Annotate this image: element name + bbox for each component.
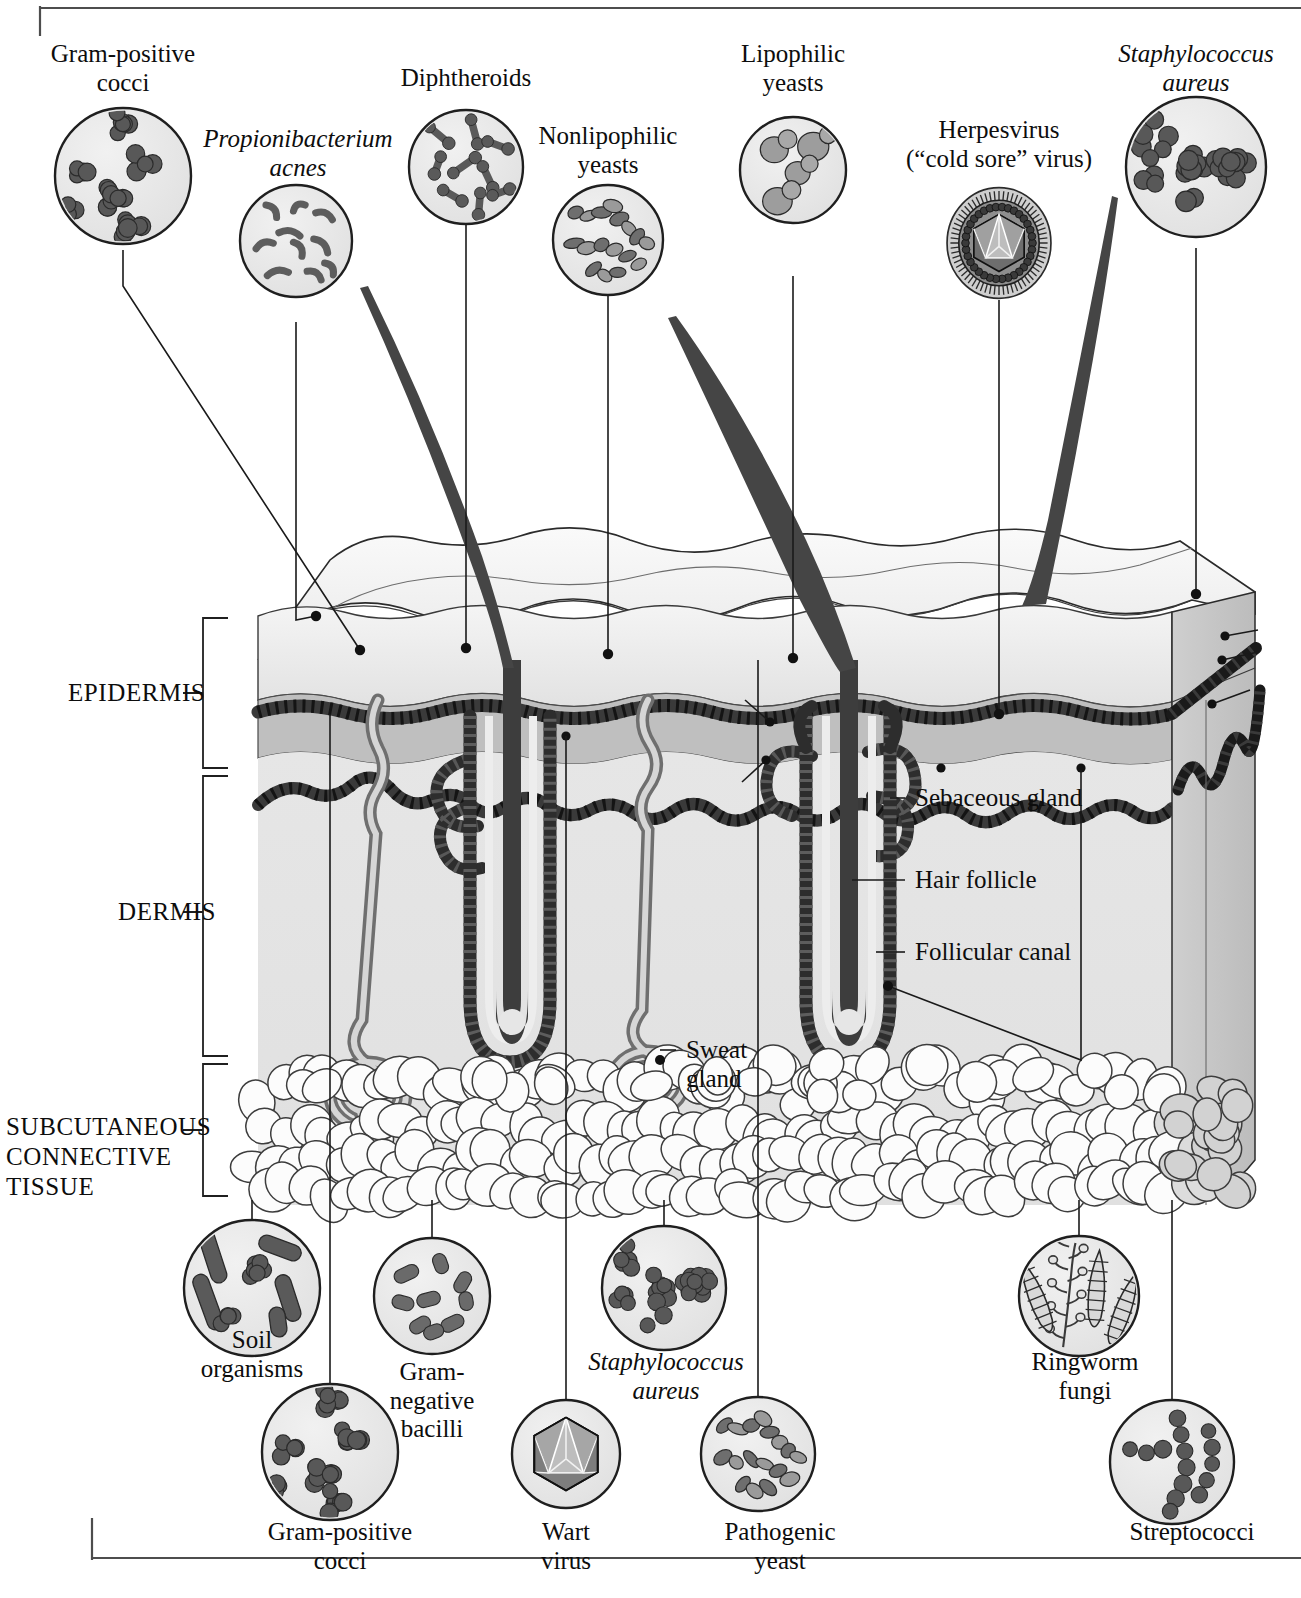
organism-inset-ringworm-fungi bbox=[1012, 1233, 1146, 1356]
figure-canvas: EPIDERMIS DERMIS SUBCUTANEOUS CONNECTIVE… bbox=[0, 0, 1301, 1598]
organism-label-lipophilic-yeasts: Lipophilic yeasts bbox=[698, 40, 888, 97]
organism-inset-wart-virus bbox=[512, 1400, 620, 1508]
organism-label-wart-virus: Wart virus bbox=[487, 1518, 645, 1575]
organism-label-soil-organisms: Soil organisms bbox=[162, 1326, 342, 1383]
organism-inset-gram-negative-bacilli bbox=[374, 1238, 490, 1354]
organism-inset-lipophilic-yeasts bbox=[740, 117, 846, 223]
organism-inset-staphylococcus-aureus-bottom bbox=[602, 1226, 726, 1350]
organism-label-herpesvirus: Herpesvirus (“cold sore” virus) bbox=[879, 116, 1119, 173]
structure-label-sebaceous-gland: Sebaceous gland bbox=[915, 784, 1082, 813]
organism-inset-diphtheroids bbox=[409, 110, 523, 224]
structure-label-hair-follicle: Hair follicle bbox=[915, 866, 1036, 895]
organism-label-nonlipophilic-yeasts: Nonlipophilic yeasts bbox=[513, 122, 703, 179]
organism-label-propionibacterium-acnes: Propionibacterium acnes bbox=[203, 125, 393, 182]
organism-label-pathogenic-yeast: Pathogenic yeast bbox=[680, 1518, 880, 1575]
organism-inset-nonlipophilic-yeasts bbox=[553, 185, 663, 295]
organism-inset-pathogenic-yeast bbox=[701, 1397, 815, 1511]
organism-label-staphylococcus-aureus-bottom: Staphylococcus aureus bbox=[566, 1348, 766, 1405]
layer-label-dermis: DERMIS bbox=[118, 897, 216, 927]
organism-label-gram-negative-bacilli: Gram- negative bacilli bbox=[352, 1358, 512, 1444]
structure-label-sweat-gland: Sweat gland bbox=[686, 1036, 747, 1093]
organism-inset-gram-positive-cocci-top bbox=[55, 105, 191, 245]
organism-inset-staphylococcus-aureus-top bbox=[1126, 97, 1266, 237]
organism-label-staphylococcus-aureus-top: Staphylococcus aureus bbox=[1096, 40, 1296, 97]
organism-inset-herpesvirus bbox=[947, 188, 1051, 299]
structure-label-follicular-canal: Follicular canal bbox=[915, 938, 1071, 967]
organism-label-diphtheroids: Diphtheroids bbox=[371, 64, 561, 93]
layer-label-epidermis: EPIDERMIS bbox=[68, 678, 205, 708]
organism-label-ringworm-fungi: Ringworm fungi bbox=[1000, 1348, 1170, 1405]
organism-label-gram-positive-cocci-top: Gram-positive cocci bbox=[23, 40, 223, 97]
layer-label-subcutaneous: SUBCUTANEOUS CONNECTIVE TISSUE bbox=[6, 1112, 211, 1202]
organism-label-gram-positive-cocci-bottom: Gram-positive cocci bbox=[240, 1518, 440, 1575]
organism-inset-streptococci bbox=[1110, 1400, 1234, 1524]
organism-inset-propionibacterium-acnes bbox=[240, 185, 352, 297]
organism-label-streptococci: Streptococci bbox=[1092, 1518, 1292, 1547]
